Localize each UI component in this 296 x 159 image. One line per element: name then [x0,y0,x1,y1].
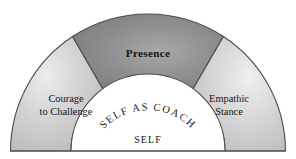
self-as-coach-diagram: Presence Courage to Challenge Empathic S… [0,0,296,159]
sector-label-empathic-line1: Empathic [209,93,249,104]
center-label-self: SELF [134,134,162,145]
sector-label-empathic-line2: Stance [215,106,243,117]
diagram-canvas: Presence Courage to Challenge Empathic S… [0,0,296,159]
sector-label-presence: Presence [126,47,170,59]
sector-label-courage-line2: to Challenge [40,106,93,117]
sector-label-courage-line1: Courage [48,93,84,104]
